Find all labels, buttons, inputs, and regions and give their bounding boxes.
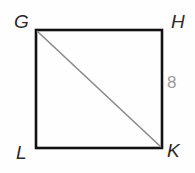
- vertex-label-k: K: [167, 141, 180, 160]
- side-length-label-hk: 8: [167, 74, 176, 91]
- geometry-figure-canvas: G H L K 8: [0, 0, 195, 173]
- vertex-label-g: G: [14, 12, 29, 31]
- vertex-label-l: L: [16, 143, 27, 162]
- figure-svg: [0, 0, 195, 173]
- vertex-label-h: H: [171, 12, 185, 31]
